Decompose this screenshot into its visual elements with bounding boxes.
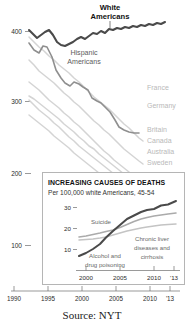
line-germany [29, 60, 143, 164]
main-ytick-200: 200 [11, 170, 22, 177]
inset-xtick-2013: '13 [170, 274, 179, 281]
main-xtick-1995: 1995 [41, 295, 56, 302]
country-label-britain: Britain [147, 126, 167, 133]
inset-label-liver-line3: cirrhosis [141, 253, 164, 260]
main-xtick-2010: 2010 [143, 295, 158, 302]
chart-canvas: 400 300 200 100 France Germany Britain C… [0, 0, 185, 320]
inset-label-poisoning-line1: Alcohol and [89, 252, 121, 259]
label-hispanic-americans-line1: Hispanic [70, 49, 98, 57]
main-xtick-2013: '13 [166, 295, 175, 302]
inset-label-liver-line1: Chronic liver [135, 235, 169, 242]
inset-title: INCREASING CAUSES OF DEATHS [48, 179, 166, 186]
line-white-americans [29, 22, 165, 46]
main-xtick-2000: 2000 [75, 295, 90, 302]
main-xtick-2005: 2005 [109, 295, 124, 302]
main-ytick-100: 100 [11, 242, 22, 249]
inset-xtick-2010: 2010 [147, 274, 161, 281]
country-label-canada: Canada [147, 137, 172, 144]
country-labels-group: France Germany Britain Canada Australia … [147, 84, 176, 166]
country-label-germany: Germany [147, 102, 176, 110]
inset-ytick-10: 10 [64, 246, 71, 253]
line-britain [29, 82, 143, 182]
main-ytick-300: 300 [11, 98, 22, 105]
main-x-axis: 1990 1995 2000 2005 2010 '13 [7, 286, 180, 302]
series-labels-group: White Americans Hispanic Americans [67, 3, 129, 66]
inset-label-poisoning-line2: drug poisoning [85, 261, 125, 268]
inset-ytick-30: 30 [64, 204, 71, 211]
inset-label-liver-line2: diseases and [134, 244, 170, 251]
figure-root: 400 300 200 100 France Germany Britain C… [0, 0, 185, 320]
country-label-sweden: Sweden [147, 159, 172, 166]
country-label-france: France [147, 84, 169, 91]
country-label-australia: Australia [147, 148, 174, 155]
inset-xtick-2005: 2005 [113, 274, 127, 281]
inset-ytick-20: 20 [64, 225, 71, 232]
main-xtick-1990: 1990 [7, 295, 22, 302]
label-white-americans-line2: Americans [91, 12, 130, 21]
inset-label-suicide: Suicide [91, 218, 112, 225]
source-note: Source: NYT [63, 309, 122, 320]
inset-xtick-2000: 2000 [79, 274, 93, 281]
main-ytick-400: 400 [11, 28, 22, 35]
main-y-axis: 400 300 200 100 [11, 28, 31, 249]
inset-chart-group: INCREASING CAUSES OF DEATHS Per 100,000 … [43, 173, 185, 285]
inset-subtitle: Per 100,000 white Americans, 45-54 [48, 189, 155, 196]
label-white-americans-line1: White [100, 3, 121, 12]
label-hispanic-americans-line2: Americans [67, 58, 101, 66]
